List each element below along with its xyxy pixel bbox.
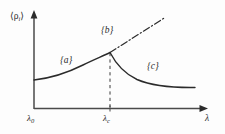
x-axis-label: λ — [205, 114, 209, 124]
curve-branch-b — [110, 18, 165, 53]
y-axis-label: ⟨ρi⟩ — [10, 12, 24, 22]
x-axis-arrowhead — [200, 105, 209, 112]
y-axis-arrowhead — [31, 10, 38, 19]
x-axis — [34, 105, 208, 112]
x-tick-lambda-0-subscript: 0 — [31, 117, 34, 124]
region-label-a: {a} — [60, 56, 72, 66]
x-tick-label-lambda-c: λc — [103, 114, 110, 124]
y-axis-label-close: ⟩ — [20, 11, 24, 21]
x-tick-label-lambda-0: λ0 — [27, 114, 34, 124]
region-label-c: {c} — [147, 62, 159, 72]
x-tick-lambda-c-subscript: c — [107, 117, 110, 124]
y-axis — [31, 10, 38, 109]
figure-container: ⟨ρi⟩ {a} {b} {c} λ0 λc λ — [0, 0, 225, 134]
region-label-b: {b} — [101, 26, 113, 36]
